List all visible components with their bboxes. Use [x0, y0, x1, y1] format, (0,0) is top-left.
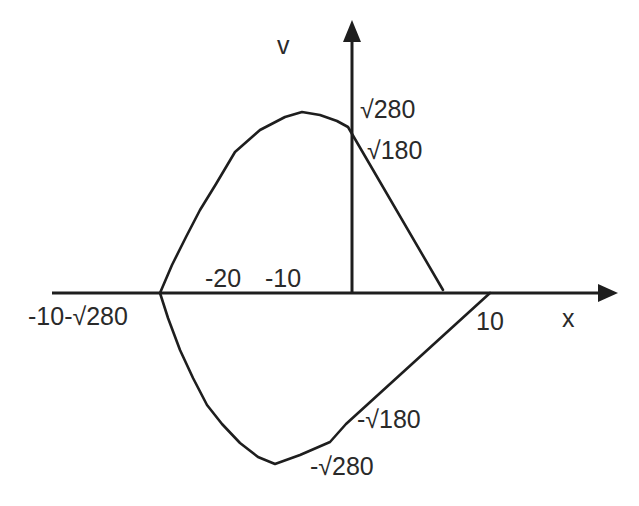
- x-axis-arrowhead-icon: [598, 284, 618, 302]
- tick-label-pos-sqrt280: √280: [360, 95, 415, 123]
- tick-label-neg-sqrt280: -√280: [310, 452, 374, 480]
- tick-label-left-intercept: -10-√280: [28, 302, 128, 330]
- x-axis: [52, 284, 618, 302]
- y-axis-arrowhead-icon: [343, 20, 361, 42]
- x-axis-label: x: [562, 304, 575, 332]
- y-axis-label: v: [277, 31, 290, 59]
- lower-trajectory: [160, 293, 490, 464]
- tick-label-neg-sqrt180: -√180: [357, 405, 421, 433]
- tick-label-ten: 10: [476, 307, 504, 335]
- y-axis: [343, 20, 361, 293]
- tick-label-minus20: -20: [205, 264, 241, 292]
- tick-label-pos-sqrt180: √180: [367, 136, 422, 164]
- tick-label-minus10: -10: [265, 264, 301, 292]
- phase-diagram: v x √280 √180 -20 -10 -10-√280 10 -√180 …: [0, 0, 639, 506]
